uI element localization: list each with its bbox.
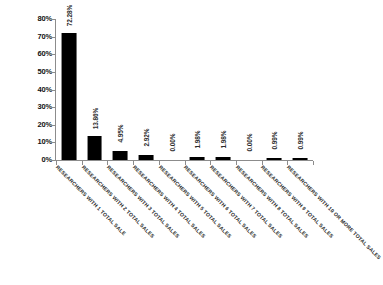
x-axis-tick-mark xyxy=(82,161,83,165)
bar-group: 0.99% xyxy=(262,19,288,160)
bar-group: 0.00% xyxy=(236,19,262,160)
bar-group: 0.00% xyxy=(159,19,185,160)
x-axis-tick-mark xyxy=(313,161,314,165)
x-axis-tick-mark xyxy=(185,161,186,165)
y-axis-tick-mark xyxy=(51,72,55,73)
x-axis-category-label: RESEARCHERS WITH 10 OR MORE TOTAL SALES xyxy=(286,164,383,261)
bar-group: 72.28% xyxy=(56,19,82,160)
bar-value-label: 1.98% xyxy=(194,130,201,148)
bar xyxy=(113,151,128,160)
y-axis-tick-mark xyxy=(51,160,55,161)
x-axis-tick-mark xyxy=(107,161,108,165)
bar-group: 4.95% xyxy=(107,19,133,160)
y-axis-tick-mark xyxy=(51,90,55,91)
y-axis-tick-mark xyxy=(51,142,55,143)
x-axis-tick-mark xyxy=(287,161,288,165)
y-axis-tick-label: 30% xyxy=(22,103,52,111)
bar-value-label: 0.00% xyxy=(168,134,175,152)
bar-group: 0.99% xyxy=(287,19,313,160)
y-axis-tick-label: 40% xyxy=(22,86,52,94)
x-axis-tick-mark xyxy=(159,161,160,165)
bar-value-label: 4.95% xyxy=(117,125,124,143)
bar-group: 2.92% xyxy=(133,19,159,160)
y-axis-tick-label: 80% xyxy=(22,15,52,23)
bar-value-label: 0.99% xyxy=(297,132,304,150)
bar-group: 13.86% xyxy=(82,19,108,160)
y-axis-tick-mark xyxy=(51,54,55,55)
x-axis-tick-mark xyxy=(56,161,57,165)
y-axis-tick-label: 20% xyxy=(22,121,52,129)
bar-value-label: 0.00% xyxy=(245,134,252,152)
bar xyxy=(61,33,76,160)
bar-value-label: 13.86% xyxy=(91,107,98,128)
y-axis-tick-mark xyxy=(51,19,55,20)
x-axis-tick-mark xyxy=(236,161,237,165)
y-axis-tick-mark xyxy=(51,107,55,108)
bar xyxy=(138,155,153,160)
bar-value-label: 0.99% xyxy=(271,132,278,150)
y-axis-tick-label: 60% xyxy=(22,50,52,58)
x-axis-tick-mark xyxy=(210,161,211,165)
y-axis-tick-mark xyxy=(51,125,55,126)
bar-value-label: 1.98% xyxy=(220,130,227,148)
bar xyxy=(190,157,205,160)
y-axis-tick-label: 50% xyxy=(22,68,52,76)
x-axis-tick-mark xyxy=(262,161,263,165)
bar xyxy=(216,157,231,160)
plot-area: 72.28%13.86%4.95%2.92%0.00%1.98%1.98%0.0… xyxy=(56,19,313,160)
bar xyxy=(87,136,102,160)
bar-value-label: 2.92% xyxy=(142,128,149,146)
bar-group: 1.98% xyxy=(210,19,236,160)
y-axis-tick-mark xyxy=(51,37,55,38)
bar xyxy=(293,158,308,160)
y-axis-tick-label: 10% xyxy=(22,138,52,146)
x-axis-category-labels: RESEARCHERS WITH 1 TOTAL SALERESEARCHERS… xyxy=(56,164,313,282)
x-axis-tick-mark xyxy=(133,161,134,165)
y-axis-tick-label: 70% xyxy=(22,33,52,41)
y-axis-tick-label: 0% xyxy=(22,156,52,164)
y-axis: 80%70%60%50%40%30%20%10%0% xyxy=(22,14,52,160)
bar-group: 1.98% xyxy=(185,19,211,160)
bar xyxy=(267,158,282,160)
bar-value-label: 72.28% xyxy=(65,4,72,25)
